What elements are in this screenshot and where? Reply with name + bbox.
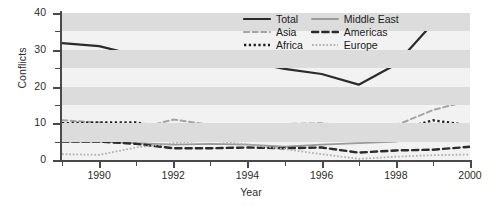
grid-band [62, 123, 470, 141]
y-tick-major [53, 160, 60, 162]
x-tick-minor [433, 162, 434, 166]
y-axis-line [60, 11, 62, 162]
legend-label: Total [276, 13, 298, 25]
x-tick-minor [62, 162, 63, 166]
y-tick-major [53, 13, 60, 15]
legend-label: Asia [276, 26, 296, 38]
y-tick-minor [55, 31, 60, 32]
legend-item-africa[interactable]: Africa [243, 39, 303, 51]
y-tick-label: 10 [0, 116, 46, 128]
x-tick-label: 1990 [79, 169, 119, 181]
y-tick-minor [55, 105, 60, 106]
x-tick-minor [136, 162, 137, 166]
x-axis-line [60, 160, 472, 162]
x-tick-major [322, 162, 324, 168]
y-tick-major [53, 123, 60, 125]
x-tick-label: 1994 [227, 169, 267, 181]
x-tick-minor [359, 162, 360, 166]
x-axis-title: Year [0, 186, 502, 198]
y-tick-minor [55, 142, 60, 143]
legend-item-asia[interactable]: Asia [243, 26, 303, 38]
x-tick-major [396, 162, 398, 168]
chart-legend: TotalMiddle EastAsiaAmericasAfricaEurope [243, 13, 399, 51]
legend-swatch-solid-icon [243, 14, 271, 24]
legend-label: Europe [344, 39, 378, 51]
legend-label: Middle East [344, 13, 399, 25]
legend-label: Africa [276, 39, 303, 51]
legend-item-middle-east[interactable]: Middle East [311, 13, 399, 25]
x-tick-major [470, 162, 472, 168]
y-tick-label: 20 [0, 80, 46, 92]
x-tick-label: 2000 [450, 169, 490, 181]
conflicts-line-chart: Conflicts Year 010203040 199019921994199… [0, 0, 502, 206]
legend-swatch-dotted-icon [311, 40, 339, 50]
x-tick-label: 1996 [302, 169, 342, 181]
x-tick-minor [210, 162, 211, 166]
y-tick-minor [55, 68, 60, 69]
y-tick-major [53, 87, 60, 89]
x-tick-label: 1992 [153, 169, 193, 181]
x-tick-minor [285, 162, 286, 166]
legend-swatch-dashed-icon [243, 27, 271, 37]
grid-band [62, 87, 470, 105]
y-tick-label: 30 [0, 43, 46, 55]
grid-band [62, 50, 470, 68]
y-axis-title: Conflicts [16, 28, 28, 108]
y-tick-label: 0 [0, 153, 46, 165]
legend-label: Americas [344, 26, 388, 38]
legend-item-europe[interactable]: Europe [311, 39, 399, 51]
y-tick-label: 40 [0, 6, 46, 18]
x-tick-major [247, 162, 249, 168]
legend-swatch-dashed-icon [311, 27, 339, 37]
x-tick-major [173, 162, 175, 168]
legend-swatch-solid-icon [311, 14, 339, 24]
legend-item-total[interactable]: Total [243, 13, 303, 25]
legend-swatch-dotted-icon [243, 40, 271, 50]
legend-item-americas[interactable]: Americas [311, 26, 399, 38]
y-tick-major [53, 50, 60, 52]
x-tick-major [99, 162, 101, 168]
x-tick-label: 1998 [376, 169, 416, 181]
